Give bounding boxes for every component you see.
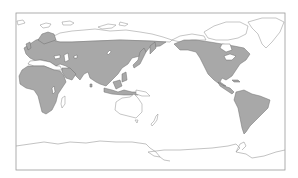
philippines-range xyxy=(122,72,127,82)
world-map xyxy=(0,0,298,178)
srilanka-range xyxy=(90,84,92,87)
map-figure xyxy=(0,0,298,178)
